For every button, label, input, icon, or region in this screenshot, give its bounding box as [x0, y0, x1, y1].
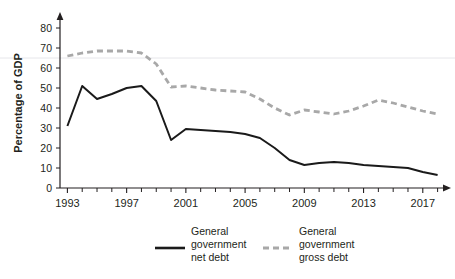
y-tick-label: 30 [40, 122, 52, 134]
y-tick-label: 40 [40, 102, 52, 114]
legend-label-gross-debt-line1: General [299, 225, 336, 237]
x-tick-label: 2009 [292, 197, 316, 209]
y-tick-label: 10 [40, 162, 52, 174]
series-line-gross-debt [67, 51, 437, 115]
x-tick-label: 2013 [351, 197, 375, 209]
x-tick-label: 2005 [233, 197, 257, 209]
x-tick-marks [67, 188, 437, 193]
line-chart-svg: 01020304050607080 1993199720012005200920… [0, 0, 455, 279]
legend-label-net-debt-line3: net debt [191, 251, 229, 263]
legend-label-net-debt-line2: government [191, 238, 247, 250]
x-tick-labels: 1993199720012005200920132017 [55, 197, 435, 209]
y-tick-label: 80 [40, 22, 52, 34]
legend-label-gross-debt-line3: gross debt [299, 251, 348, 263]
y-tick-label: 60 [40, 62, 52, 74]
x-axis [60, 185, 451, 192]
legend-label-gross-debt-line2: government [299, 238, 355, 250]
y-axis-arrowhead [57, 12, 64, 20]
x-tick-label: 2017 [411, 197, 435, 209]
x-axis-arrowhead [443, 185, 451, 192]
y-tick-labels: 01020304050607080 [40, 22, 52, 194]
y-axis-title: Percentage of GDP [12, 53, 24, 153]
legend-label-net-debt-line1: General [191, 225, 228, 237]
series-lines [67, 51, 437, 175]
x-tick-label: 1993 [55, 197, 79, 209]
y-tick-label: 50 [40, 82, 52, 94]
y-tick-label: 0 [46, 182, 52, 194]
y-axis [57, 12, 64, 188]
x-tick-label: 2001 [174, 197, 198, 209]
x-tick-label: 1997 [114, 197, 138, 209]
chart-figure: 01020304050607080 1993199720012005200920… [0, 0, 455, 279]
y-tick-label: 70 [40, 42, 52, 54]
y-tick-label: 20 [40, 142, 52, 154]
chart-legend: General government net debt General gove… [155, 225, 355, 263]
